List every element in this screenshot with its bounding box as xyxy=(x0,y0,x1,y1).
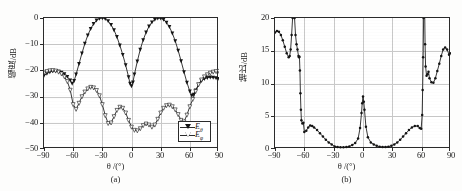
panel-a: 幅度/dB 0 −10 −20 −30 −40 −50 −90 −60 −30 … xyxy=(0,0,231,191)
panel-a-xtick-m90: −90 xyxy=(31,150,55,160)
panel-b-ytick-5: 5 xyxy=(241,110,269,120)
panel-b-xtick-60: 60 xyxy=(409,150,433,160)
panel-b-plot-area xyxy=(274,17,450,148)
panel-b-xtick-m60: −60 xyxy=(291,150,315,160)
panel-b-xtick-90: 90 xyxy=(439,150,462,160)
legend-label-e-phi: Eφ xyxy=(195,130,203,141)
panel-b-ytick-10: 10 xyxy=(241,77,269,87)
panel-a-ytick-10: −10 xyxy=(10,38,38,48)
panel-b-x-axis-title: θ /(°) xyxy=(231,161,462,171)
panel-a-xtick-m60: −60 xyxy=(60,150,84,160)
panel-b-xtick-m90: −90 xyxy=(262,150,286,160)
panel-a-xtick-60: 60 xyxy=(177,150,201,160)
panel-b: 轴比/dB 20 15 10 5 0 −90 −60 −30 0 30 60 9… xyxy=(231,0,462,191)
legend-item-e-phi[interactable]: Eφ xyxy=(180,131,208,139)
panel-a-legend[interactable]: Eθ Eφ xyxy=(178,121,211,142)
panel-a-xtick-30: 30 xyxy=(148,150,172,160)
panel-a-x-axis-title: θ /(°) xyxy=(0,161,231,171)
panel-a-ytick-20: −20 xyxy=(10,64,38,74)
panel-b-xtick-m30: −30 xyxy=(321,150,345,160)
panel-b-ytick-20: 20 xyxy=(241,12,269,22)
panel-a-ytick-30: −30 xyxy=(10,90,38,100)
panel-b-xtick-30: 30 xyxy=(380,150,404,160)
panel-a-ytick-40: −40 xyxy=(10,117,38,127)
panel-a-xtick-m30: −30 xyxy=(89,150,113,160)
panel-a-ytick-0: 0 xyxy=(10,12,38,22)
panel-b-caption: (b) xyxy=(231,174,462,184)
panel-b-ytick-15: 15 xyxy=(241,44,269,54)
panel-a-xtick-0: 0 xyxy=(119,150,143,160)
panel-b-curves xyxy=(275,18,451,149)
panel-a-caption: (a) xyxy=(0,174,231,184)
open-triangle-down-icon xyxy=(180,131,195,139)
filled-triangle-down-icon xyxy=(180,123,195,131)
panel-b-xtick-0: 0 xyxy=(350,150,374,160)
panel-a-xtick-90: 90 xyxy=(207,150,231,160)
figure-root: 幅度/dB 0 −10 −20 −30 −40 −50 −90 −60 −30 … xyxy=(0,0,462,191)
legend-item-e-theta[interactable]: Eθ xyxy=(180,123,208,131)
